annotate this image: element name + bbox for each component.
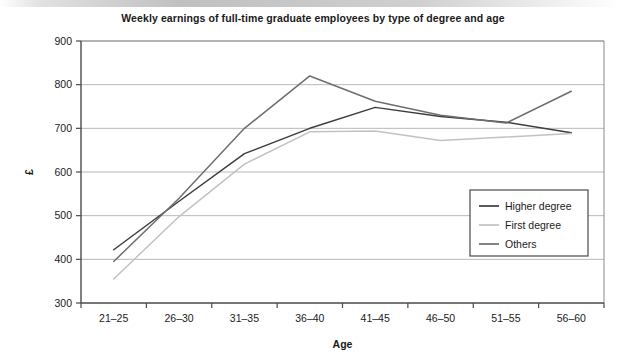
- gridlines-group: [81, 41, 604, 303]
- y-tick-label: 400: [54, 253, 72, 265]
- x-tick-label: 56–60: [557, 312, 586, 324]
- x-axis: 21–2526–3031–3536–4041–4546–5051–5556–60…: [81, 303, 604, 350]
- x-tick-label: 31–35: [230, 312, 259, 324]
- legend-label-first-degree: First degree: [505, 219, 561, 231]
- x-tick-label: 26–30: [164, 312, 193, 324]
- y-axis-title: £: [23, 169, 35, 175]
- x-tick-label: 21–25: [99, 312, 128, 324]
- legend-label-higher-degree: Higher degree: [505, 200, 572, 212]
- x-tick-label: 46–50: [426, 312, 455, 324]
- x-tick-label: 51–55: [491, 312, 520, 324]
- y-tick-label: 600: [54, 166, 72, 178]
- chart-container: Weekly earnings of full-time graduate em…: [0, 0, 626, 364]
- x-tick-label: 36–40: [295, 312, 324, 324]
- y-axis: 300400500600700800900£: [23, 35, 81, 309]
- x-axis-title: Age: [333, 338, 353, 350]
- line-chart-plot: 300400500600700800900£ 21–2526–3031–3536…: [0, 0, 626, 364]
- y-tick-label: 800: [54, 78, 72, 90]
- legend-label-others: Others: [505, 238, 537, 250]
- y-tick-label: 700: [54, 122, 72, 134]
- y-tick-label: 500: [54, 209, 72, 221]
- x-tick-label: 41–45: [361, 312, 390, 324]
- chart-legend: Higher degreeFirst degreeOthers: [470, 190, 588, 256]
- y-tick-label: 300: [54, 297, 72, 309]
- y-tick-label: 900: [54, 35, 72, 47]
